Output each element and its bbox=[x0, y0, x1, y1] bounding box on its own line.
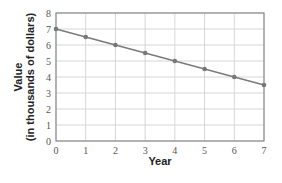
x-tick-label: 7 bbox=[262, 145, 267, 156]
y-tick-label: 4 bbox=[46, 72, 51, 83]
y-tick-label: 5 bbox=[46, 56, 51, 67]
data-point bbox=[232, 75, 237, 80]
x-tick-label: 2 bbox=[113, 145, 118, 156]
y-axis-label-line2: (in thousands of dollars) bbox=[24, 13, 36, 142]
x-tick-label: 5 bbox=[202, 145, 207, 156]
x-tick-label: 1 bbox=[83, 145, 88, 156]
data-point bbox=[83, 35, 88, 40]
y-tick-label: 0 bbox=[46, 136, 51, 147]
data-point bbox=[113, 43, 118, 48]
x-tick-label: 0 bbox=[54, 145, 59, 156]
data-point bbox=[143, 51, 148, 56]
y-tick-label: 6 bbox=[46, 40, 51, 51]
data-point bbox=[262, 83, 267, 88]
x-axis-label: Year bbox=[148, 155, 172, 167]
data-point bbox=[202, 67, 207, 72]
line-chart: 012345678 01234567 Year Value (in thousa… bbox=[0, 0, 282, 183]
data-point bbox=[54, 27, 59, 32]
x-tick-label: 4 bbox=[172, 145, 177, 156]
y-tick-label: 7 bbox=[46, 24, 51, 35]
x-tick-label: 3 bbox=[143, 145, 148, 156]
x-tick-label: 6 bbox=[232, 145, 237, 156]
y-tick-label: 1 bbox=[46, 120, 51, 131]
y-axis-label: Value (in thousands of dollars) bbox=[12, 13, 36, 142]
y-tick-label: 2 bbox=[46, 104, 51, 115]
y-tick-label: 8 bbox=[46, 8, 51, 19]
y-axis-ticks: 012345678 bbox=[46, 8, 51, 147]
data-point bbox=[173, 59, 178, 64]
y-tick-label: 3 bbox=[46, 88, 51, 99]
y-axis-label-line1: Value bbox=[12, 63, 24, 92]
